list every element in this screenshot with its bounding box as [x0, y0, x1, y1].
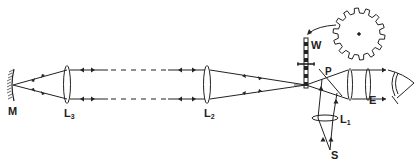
diagram-canvas — [0, 0, 419, 162]
dashed-long-path — [111, 70, 167, 99]
label-wheel: W — [311, 40, 321, 51]
lens-l1 — [312, 115, 338, 121]
gear-to-wheel-arrow — [307, 25, 336, 35]
label-lens-l2: L2 — [204, 108, 215, 120]
eyepiece-lens-1 — [348, 69, 353, 101]
lens-l3 — [64, 66, 71, 104]
fizeau-diagram: M L3 L2 W P E L1 S — [0, 0, 419, 162]
label-plate: P — [325, 67, 332, 77]
rays-source — [318, 79, 339, 150]
mirror-m — [7, 69, 14, 101]
label-mirror: M — [8, 106, 17, 117]
label-lens-l3: L3 — [64, 108, 75, 120]
label-eyepiece: E — [369, 95, 376, 106]
parallel-rays-right — [168, 68, 205, 102]
rays-m-l3 — [13, 70, 67, 99]
rays-l2-w — [210, 70, 306, 99]
parallel-rays-left — [70, 68, 108, 102]
observer-eye — [388, 70, 414, 104]
label-source: S — [331, 150, 338, 161]
label-lens-l1: L1 — [340, 114, 351, 126]
lens-l2 — [204, 66, 211, 104]
gear-face — [333, 8, 385, 60]
